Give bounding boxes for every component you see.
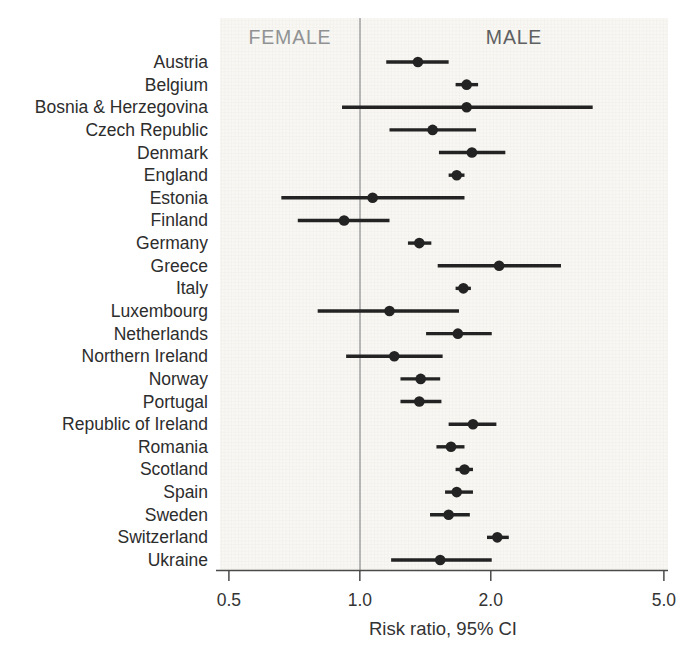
country-label: Greece [151,256,208,276]
x-axis-title: Risk ratio, 95% CI [369,618,517,639]
x-tick-label: 0.5 [217,590,241,610]
point-estimate [459,464,470,475]
country-label: Luxembourg [111,301,208,321]
point-estimate [461,102,472,113]
country-label: Estonia [150,188,209,208]
point-estimate [339,215,350,226]
country-label: Austria [154,52,209,72]
country-label: Netherlands [114,324,209,344]
male-header-label: MALE [486,26,542,48]
point-estimate [451,170,462,181]
country-label: Sweden [145,505,208,525]
point-estimate [367,193,378,204]
point-estimate [414,238,425,249]
point-estimate [468,419,479,430]
forest-plot-figure: FEMALE MALE AustriaBelgiumBosnia & Herze… [0,0,686,659]
country-label: Germany [136,233,208,253]
x-tick-label: 2.0 [479,590,504,610]
country-label: Ukraine [148,550,208,570]
country-label: Romania [138,437,208,457]
point-estimate [389,351,400,362]
point-estimate [494,260,505,271]
country-label: Switzerland [118,527,208,547]
point-estimate [443,509,454,520]
country-label: Scotland [140,459,208,479]
chart-svg: FEMALE MALE AustriaBelgiumBosnia & Herze… [0,0,686,659]
x-tick-label: 5.0 [652,590,677,610]
country-label: England [144,165,208,185]
plot-area [220,18,668,570]
point-estimate [453,328,464,339]
point-estimate [415,374,426,385]
point-estimate [435,555,446,566]
x-tick-label: 1.0 [348,590,373,610]
point-estimate [446,442,457,453]
country-label: Republic of Ireland [62,414,208,434]
point-estimate [413,57,424,68]
point-estimate [414,396,425,407]
country-label: Bosnia & Herzegovina [35,97,208,117]
point-estimate [461,79,472,90]
point-estimate [427,125,438,136]
country-label: Czech Republic [85,120,208,140]
point-estimate [451,487,462,498]
country-label: Spain [163,482,208,502]
country-label: Belgium [145,75,208,95]
country-label: Northern Ireland [82,346,208,366]
x-axis: 0.51.02.05.0 [216,571,676,611]
point-estimate [492,532,503,543]
point-estimate [458,283,469,294]
point-estimate [467,147,478,158]
point-estimate [384,306,395,317]
country-label: Finland [151,210,208,230]
country-label: Italy [176,278,208,298]
country-label: Norway [149,369,209,389]
country-label: Portugal [143,392,208,412]
female-header-label: FEMALE [249,26,332,48]
country-label: Denmark [137,143,208,163]
